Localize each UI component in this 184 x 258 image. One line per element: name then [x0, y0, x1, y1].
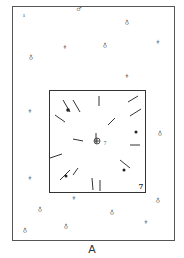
specimen-marker-icon: ♁ — [20, 227, 30, 233]
specimen-marker-icon: ♁ — [26, 54, 36, 60]
specimen-marker-icon: ♁ — [100, 42, 110, 48]
specimen-marker-icon: ǂ — [153, 39, 163, 45]
specimen-marker-icon: ♁ — [107, 209, 117, 215]
specimen-marker-icon: ♁ — [61, 223, 71, 229]
center-label: 7 — [101, 140, 109, 146]
specimen-marker-icon: ♁ — [122, 19, 132, 25]
figure-label: A — [0, 243, 184, 256]
specimen-marker-icon: ǂ — [122, 73, 132, 79]
specimen-marker-icon: ǂ — [141, 219, 151, 225]
specimen-marker-icon: ǂ — [25, 108, 35, 114]
specimen-marker-icon: ♁ — [35, 206, 45, 212]
specimen-marker-icon: ı — [19, 12, 29, 18]
specimen-marker-icon: ♁ — [153, 197, 163, 203]
specimen-marker-icon: ǂ — [69, 195, 79, 201]
specimen-marker-icon: ǂ — [60, 44, 70, 50]
specimen-marker-icon: ǂ — [25, 175, 35, 181]
corner-label: 7 — [137, 184, 145, 190]
specimen-marker-icon: ♁ — [155, 130, 165, 136]
specimen-marker-icon: ♂ — [74, 6, 84, 12]
